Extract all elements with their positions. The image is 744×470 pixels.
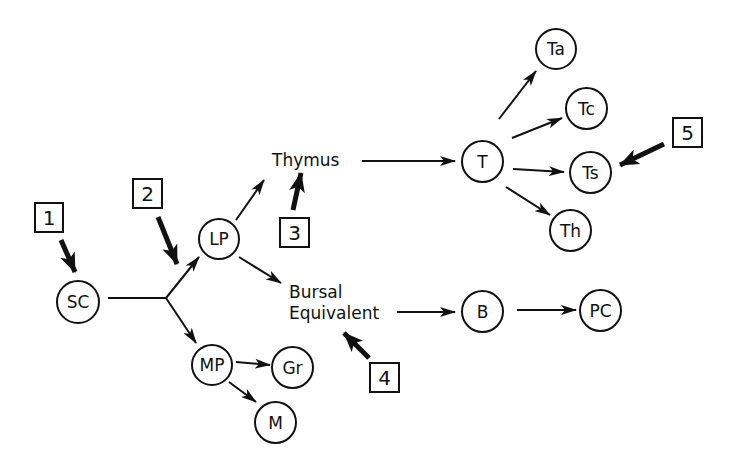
node-lp: LP [198, 218, 240, 260]
node-tc: Tc [565, 87, 608, 130]
node-ta-label: Ta [547, 39, 565, 59]
marker-box-3-label: 3 [288, 221, 301, 245]
edge-lp-thymus [236, 180, 264, 220]
connector-layer [0, 0, 744, 470]
marker-box-1: 1 [34, 202, 64, 233]
marker-arrow-2 [158, 217, 177, 264]
marker-box-4: 4 [369, 362, 400, 393]
node-mp: MP [191, 344, 233, 386]
marker-box-5: 5 [672, 117, 703, 148]
node-ts-label: Ts [582, 163, 598, 183]
edge-t-ts [513, 169, 564, 172]
node-sc: SC [56, 280, 100, 324]
node-gr-label: Gr [282, 358, 302, 378]
edge-junction-lp [166, 257, 199, 298]
node-sc-label: SC [67, 292, 90, 312]
marker-box-3: 3 [279, 217, 310, 248]
edge-t-th [506, 187, 550, 215]
edge-t-tc [512, 118, 562, 138]
marker-box-5-label: 5 [681, 121, 694, 145]
marker-arrow-3 [293, 173, 301, 210]
node-lp-label: LP [209, 229, 229, 249]
node-b-label: B [477, 302, 489, 322]
node-ta: Ta [535, 28, 577, 70]
node-mp-label: MP [200, 355, 225, 375]
organ-bursal: Bursal Equivalent [289, 282, 379, 324]
marker-arrow-5 [620, 144, 664, 165]
node-th: Th [549, 209, 592, 252]
node-ts: Ts [569, 151, 612, 194]
organ-bursal-line2: Equivalent [289, 303, 379, 324]
marker-box-2: 2 [132, 178, 163, 209]
edge-mp-gr [236, 362, 270, 365]
marker-box-2-label: 2 [141, 182, 154, 206]
lymphoid-lineage-diagram: SC LP MP Gr M T Ta Tc Ts Th B PC Thymus … [0, 0, 744, 470]
node-th-label: Th [560, 221, 581, 241]
node-tc-label: Tc [578, 99, 595, 119]
marker-box-1-label: 1 [43, 206, 56, 230]
node-pc: PC [579, 289, 622, 332]
marker-arrow-1 [61, 240, 75, 272]
node-t: T [461, 140, 504, 183]
node-gr: Gr [271, 346, 314, 389]
node-t-label: T [477, 152, 487, 172]
edge-lp-bursal [239, 257, 281, 283]
edge-junction-mp [166, 298, 196, 343]
edge-mp-m [229, 382, 256, 402]
marker-box-4-label: 4 [378, 366, 391, 390]
organ-thymus: Thymus [272, 150, 339, 171]
marker-arrow-4 [344, 333, 369, 358]
node-m-label: M [268, 413, 283, 433]
node-pc-label: PC [589, 301, 611, 321]
edge-t-ta [499, 71, 536, 119]
node-m: M [254, 401, 297, 444]
node-b: B [461, 290, 504, 333]
organ-bursal-line1: Bursal [289, 282, 379, 303]
